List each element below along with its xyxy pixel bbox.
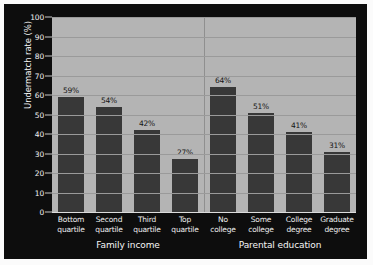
category-label-line: Second	[90, 215, 128, 225]
category-label-line: Third	[128, 215, 166, 225]
y-axis-tick-label: 70	[35, 71, 44, 80]
category-labels: BottomquartileSecondquartileThirdquartil…	[52, 215, 356, 241]
y-axis-tick-label: 20	[35, 169, 44, 178]
chart-screenshot: Undermatch rate (%) 01020304050607080901…	[0, 0, 373, 265]
bar-value-label: 54%	[90, 96, 128, 105]
category-label-line: college	[204, 225, 242, 235]
y-axis-tick-label: 100	[30, 13, 44, 22]
category-label-line: quartile	[90, 225, 128, 235]
category-label: Nocollege	[204, 215, 242, 234]
category-label-line: College	[280, 215, 318, 225]
category-label-line: Graduate	[318, 215, 356, 225]
gridline	[52, 115, 356, 116]
bar	[96, 107, 122, 212]
y-axis-tick-label: 40	[35, 130, 44, 139]
category-label-line: quartile	[166, 225, 204, 235]
category-label: Bottomquartile	[52, 215, 90, 234]
y-axis-tick-mark	[45, 192, 52, 193]
bar	[324, 152, 350, 212]
y-axis-title: Undermatch rate (%)	[23, 4, 33, 145]
gridline	[52, 37, 356, 38]
category-label: Graduatedegree	[318, 215, 356, 234]
category-label: Secondquartile	[90, 215, 128, 234]
category-label-line: quartile	[128, 225, 166, 235]
group-title: Family income	[52, 240, 204, 250]
y-axis: Undermatch rate (%) 01020304050607080901…	[4, 4, 52, 226]
gridline	[52, 193, 356, 194]
group-title: Parental education	[204, 240, 356, 250]
x-axis-line	[52, 212, 356, 213]
y-axis-tick-label: 90	[35, 32, 44, 41]
bar-value-label: 42%	[128, 119, 166, 128]
y-axis-tick-mark	[45, 114, 52, 115]
category-label: Topquartile	[166, 215, 204, 234]
y-axis-tick-label: 30	[35, 149, 44, 158]
y-axis-tick-label: 0	[39, 208, 44, 217]
category-label-line: Bottom	[52, 215, 90, 225]
bar-value-label: 59%	[52, 86, 90, 95]
gridline	[52, 173, 356, 174]
category-label-line: Some	[242, 215, 280, 225]
bar-value-label: 64%	[204, 76, 242, 85]
category-label-line: college	[242, 225, 280, 235]
y-axis-tick-label: 80	[35, 52, 44, 61]
group-titles: Family incomeParental education	[52, 240, 356, 256]
bar-value-label: 41%	[280, 121, 318, 130]
y-axis-tick-mark	[45, 134, 52, 135]
bar	[134, 130, 160, 212]
y-axis-tick-mark	[45, 95, 52, 96]
bar-value-label: 31%	[318, 141, 356, 150]
category-label: Somecollege	[242, 215, 280, 234]
category-label-line: No	[204, 215, 242, 225]
category-label-line: Top	[166, 215, 204, 225]
category-label-line: quartile	[52, 225, 90, 235]
y-axis-tick-mark	[45, 17, 52, 18]
gridline	[52, 154, 356, 155]
bar	[248, 113, 274, 212]
y-axis-tick-mark	[45, 212, 52, 213]
plot-area: 59%54%42%27%64%51%41%31%	[52, 17, 356, 212]
y-axis-tick-label: 50	[35, 110, 44, 119]
category-label: Thirdquartile	[128, 215, 166, 234]
chart-panel: Undermatch rate (%) 01020304050607080901…	[4, 4, 367, 259]
gridline	[52, 56, 356, 57]
y-axis-tick-mark	[45, 173, 52, 174]
y-axis-tick-mark	[45, 75, 52, 76]
category-label-line: degree	[318, 225, 356, 235]
y-axis-tick-label: 60	[35, 91, 44, 100]
bar-value-label: 51%	[242, 102, 280, 111]
category-label-line: degree	[280, 225, 318, 235]
category-label: Collegedegree	[280, 215, 318, 234]
y-axis-tick-mark	[45, 153, 52, 154]
gridline	[52, 76, 356, 77]
y-axis-tick-mark	[45, 36, 52, 37]
bar	[172, 159, 198, 212]
y-axis-tick-label: 10	[35, 188, 44, 197]
gridline	[52, 95, 356, 96]
gridline	[52, 17, 356, 18]
y-axis-tick-mark	[45, 56, 52, 57]
gridline	[52, 134, 356, 135]
